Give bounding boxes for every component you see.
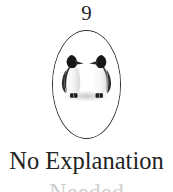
penguin-illustration [53,31,120,138]
figure-number: 9 [0,0,173,27]
caption-line-2: Needed [0,177,173,192]
oval-illustration-frame [52,30,121,139]
caption-line-1: No Explanation [0,145,173,177]
ground-shadow [60,90,112,103]
figure-page: 9 [0,0,173,192]
